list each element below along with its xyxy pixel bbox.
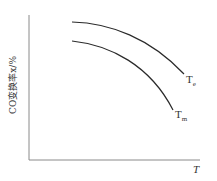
label-te-sub: e	[193, 80, 196, 88]
curve-label-tm: Tm	[175, 108, 187, 123]
chart-plot	[0, 0, 217, 181]
label-te-main: T	[186, 73, 193, 85]
x-axis-label: T	[193, 163, 199, 175]
chart-canvas: CO变换率x/% T Te Tm	[0, 0, 217, 181]
curve-label-te: Te	[186, 73, 196, 88]
label-tm-main: T	[175, 108, 182, 120]
y-axis-label: CO变换率x/%	[6, 40, 20, 130]
label-tm-sub: m	[182, 115, 187, 123]
curve-te	[72, 22, 184, 74]
